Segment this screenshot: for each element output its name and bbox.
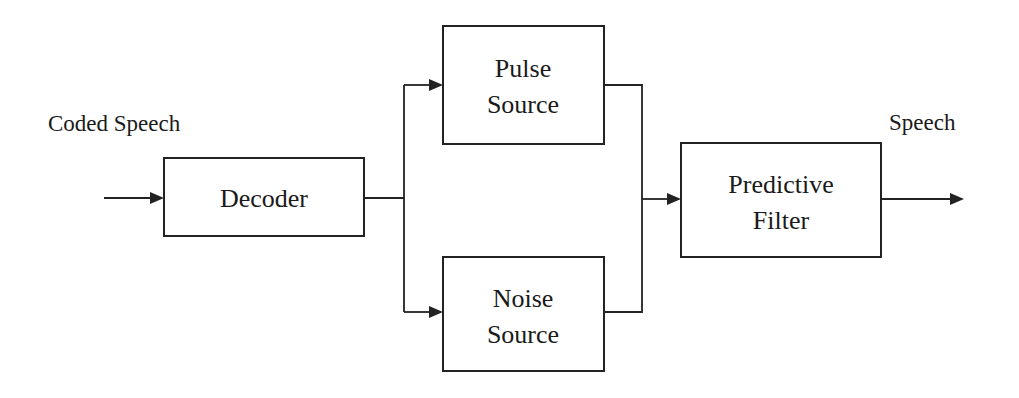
output-label: Speech: [889, 110, 956, 135]
decoder-block: Decoder: [164, 158, 364, 236]
input-arrow: [104, 192, 164, 204]
input-label: Coded Speech: [48, 111, 181, 136]
arrow-to-filter: [667, 193, 681, 205]
merge-wires: [604, 85, 681, 312]
speech-decoder-diagram: Coded Speech Speech Decoder Pulse Source…: [0, 0, 1019, 398]
noise-label-line2: Source: [487, 320, 559, 349]
filter-label-line1: Predictive: [728, 170, 833, 199]
predictive-filter-block: Predictive Filter: [681, 143, 881, 257]
output-arrow: [881, 193, 964, 205]
filter-label-line2: Filter: [753, 206, 810, 235]
pulse-source-block: Pulse Source: [443, 26, 604, 144]
noise-source-block: Noise Source: [443, 257, 604, 371]
pulse-label-line1: Pulse: [495, 54, 551, 83]
pulse-label-line2: Source: [487, 90, 559, 119]
decoder-label: Decoder: [220, 184, 308, 213]
arrow-to-noise: [429, 306, 443, 318]
split-wires: [364, 79, 443, 318]
arrow-to-pulse: [429, 79, 443, 91]
noise-label-line1: Noise: [493, 284, 554, 313]
